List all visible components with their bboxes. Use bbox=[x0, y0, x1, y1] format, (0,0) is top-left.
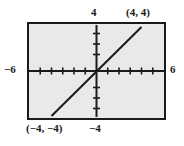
y-axis-top-label: 4 bbox=[91, 7, 97, 18]
y-axis-bottom-label: −4 bbox=[89, 123, 101, 134]
x-axis-right-label: 6 bbox=[170, 64, 176, 75]
point-label-upper-right: (4, 4) bbox=[126, 7, 150, 18]
x-axis-left-label: −6 bbox=[4, 64, 16, 75]
point-label-lower-left: (−4, −4) bbox=[26, 123, 62, 134]
coordinate-graph-figure: 4 (4, 4) −6 6 −4 (−4, −4) bbox=[0, 0, 184, 146]
